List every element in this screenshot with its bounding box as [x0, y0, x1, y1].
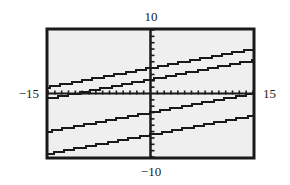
- xmax-label: 15: [263, 86, 276, 101]
- ymin-label: −10: [141, 164, 161, 179]
- graphing-calculator-plot: 10 −10 −15 15: [0, 0, 290, 185]
- ymax-label: 10: [145, 9, 158, 24]
- xmin-label: −15: [19, 86, 39, 101]
